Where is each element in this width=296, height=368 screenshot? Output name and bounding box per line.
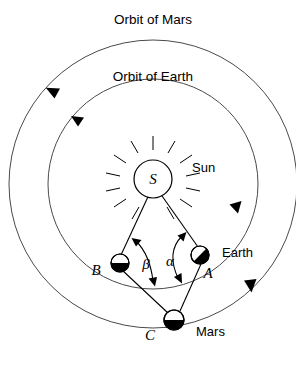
angle-alpha-arc <box>173 236 182 278</box>
planet-c-shading <box>164 320 184 330</box>
label-sun: Sun <box>192 160 215 175</box>
label-point-a: A <box>202 265 213 281</box>
diagram-canvas: S <box>0 0 296 368</box>
label-angle-beta: β <box>141 256 150 272</box>
label-inner-orbit: Orbit of Earth <box>113 69 193 84</box>
inner-orbit-arrow-upper-left <box>71 116 84 127</box>
outer-orbit-arrow-upper-left <box>46 88 60 99</box>
label-mars: Mars <box>196 324 225 339</box>
label-point-c: C <box>145 327 156 343</box>
inner-orbit-arrow-right <box>230 201 242 214</box>
segment-b-to-c <box>122 270 168 313</box>
label-outer-orbit: Orbit of Mars <box>114 12 192 27</box>
planet-c-group <box>164 310 184 330</box>
label-angle-alpha: α <box>166 253 175 269</box>
planet-b-group <box>111 254 129 272</box>
orbit-diagram: S <box>0 0 296 368</box>
angle-alpha-marker <box>173 232 187 284</box>
label-earth: Earth <box>222 245 253 260</box>
planet-a-group <box>191 246 209 264</box>
sun-group: S <box>106 136 200 219</box>
label-point-b: B <box>91 262 100 278</box>
label-point-s: S <box>149 171 157 187</box>
angle-alpha-arrowhead-bottom <box>174 273 182 284</box>
planet-b-shading <box>111 263 129 272</box>
angle-beta-arrowhead-bottom <box>149 277 158 287</box>
segment-a-to-c <box>180 264 201 311</box>
